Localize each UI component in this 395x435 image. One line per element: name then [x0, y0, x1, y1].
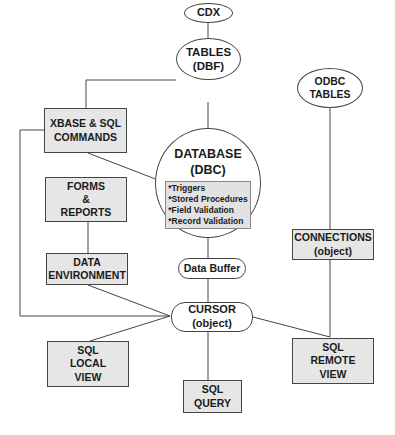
odbc-label: ODBC — [315, 75, 346, 88]
sql-remote-view-node: SQL REMOTE VIEW — [292, 338, 374, 384]
feature-field-validation: *Field Validation — [168, 205, 247, 216]
forms-ampersand: & — [82, 193, 90, 206]
sql-local-sublabel: LOCAL — [70, 357, 106, 370]
database-sublabel: (DBC) — [190, 163, 225, 179]
sql-local-label: SQL — [77, 344, 99, 357]
odbc-sublabel: TABLES — [309, 88, 350, 101]
odbc-tables-node: ODBC TABLES — [297, 68, 363, 108]
forms-label: FORMS — [67, 180, 105, 193]
database-features-list: *Triggers *Stored Procedures *Field Vali… — [165, 181, 250, 229]
forms-reports-node: FORMS & REPORTS — [45, 177, 127, 222]
sql-query-node: SQL QUERY — [183, 380, 242, 413]
sql-remote-label: SQL — [322, 341, 344, 354]
tables-dbf-node: TABLES (DBF) — [176, 38, 241, 80]
data-buffer-label: Data Buffer — [184, 262, 241, 275]
data-env-label: DATA — [73, 256, 101, 269]
feature-stored-procedures: *Stored Procedures — [168, 194, 247, 205]
xbase-label: XBASE & SQL — [50, 117, 121, 130]
sql-remote-sublabel: REMOTE — [311, 354, 356, 367]
sql-query-label: SQL — [202, 383, 224, 396]
connections-node: CONNECTIONS (object) — [292, 229, 374, 260]
sql-remote-view-label: VIEW — [320, 368, 347, 381]
sql-query-sublabel: QUERY — [194, 397, 231, 410]
database-label: DATABASE — [174, 147, 242, 163]
tables-label: TABLES — [186, 45, 231, 59]
data-buffer-node: Data Buffer — [178, 258, 246, 279]
feature-record-validation: *Record Validation — [168, 216, 247, 227]
cursor-sublabel: (object) — [192, 317, 232, 331]
feature-triggers: *Triggers — [168, 183, 247, 194]
data-env-sublabel: ENVIRONMENT — [48, 269, 126, 282]
cdx-node: CDX — [184, 3, 233, 23]
xbase-sublabel: COMMANDS — [54, 131, 117, 144]
data-environment-node: DATA ENVIRONMENT — [46, 253, 128, 285]
sql-local-view-node: SQL LOCAL VIEW — [47, 341, 129, 387]
tables-sublabel: (DBF) — [193, 59, 224, 73]
cursor-label: CURSOR — [188, 303, 236, 317]
connections-label: CONNECTIONS — [294, 231, 372, 244]
connections-sublabel: (object) — [314, 245, 352, 258]
cursor-object-node: CURSOR (object) — [171, 302, 253, 332]
xbase-sql-commands-node: XBASE & SQL COMMANDS — [44, 108, 127, 153]
cdx-label: CDX — [197, 6, 220, 20]
sql-local-view-label: VIEW — [75, 371, 102, 384]
reports-label: REPORTS — [61, 206, 112, 219]
database-dbc-node: DATABASE (DBC) *Triggers *Stored Procedu… — [155, 128, 261, 238]
